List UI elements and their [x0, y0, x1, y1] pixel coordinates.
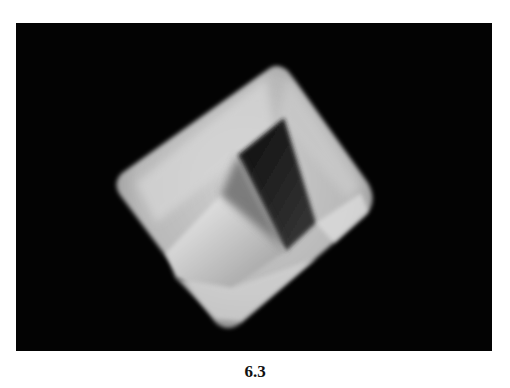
figure-caption: 6.3 — [0, 362, 510, 382]
crystal-photo — [16, 23, 492, 351]
crystal-image — [16, 23, 492, 351]
